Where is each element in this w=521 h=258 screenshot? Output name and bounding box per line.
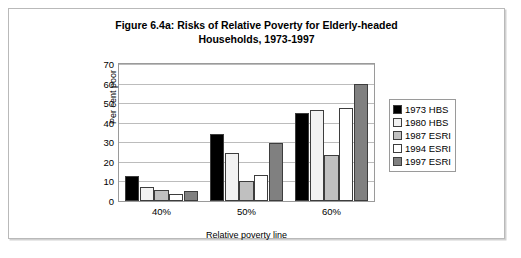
x-axis-tick-label: 40% bbox=[152, 206, 171, 217]
bar bbox=[210, 134, 224, 201]
figure-frame: Figure 6.4a: Risks of Relative Poverty f… bbox=[8, 8, 505, 239]
chart-legend: 1973 HBS1980 HBS1987 ESRI1994 ESRI1997 E… bbox=[389, 99, 456, 172]
legend-item-label: 1973 HBS bbox=[405, 105, 448, 114]
x-axis-label: Relative poverty line bbox=[119, 230, 374, 240]
legend-swatch-icon bbox=[393, 144, 402, 153]
y-axis-tick-label: 20 bbox=[103, 158, 114, 167]
bar bbox=[310, 110, 324, 201]
legend-item: 1973 HBS bbox=[393, 103, 451, 116]
figure-title: Figure 6.4a: Risks of Relative Poverty f… bbox=[9, 18, 504, 46]
bar bbox=[295, 113, 309, 201]
legend-swatch-icon bbox=[393, 105, 402, 114]
bar-group bbox=[295, 64, 368, 201]
bar bbox=[254, 175, 268, 201]
bar bbox=[225, 153, 239, 201]
legend-item-label: 1994 ESRI bbox=[405, 144, 451, 153]
legend-item-label: 1980 HBS bbox=[405, 118, 448, 127]
bar-group bbox=[210, 64, 283, 201]
x-axis-tick-label: 60% bbox=[322, 206, 341, 217]
legend-swatch-icon bbox=[393, 118, 402, 127]
legend-item: 1997 ESRI bbox=[393, 155, 451, 168]
legend-item: 1987 ESRI bbox=[393, 129, 451, 142]
legend-swatch-icon bbox=[393, 131, 402, 140]
y-axis-tick-label: 0 bbox=[109, 197, 114, 206]
y-axis-tick-label: 10 bbox=[103, 177, 114, 186]
plot-area: 010203040506070 40%50%60% Per cent poor … bbox=[118, 63, 375, 202]
bar bbox=[140, 187, 154, 201]
legend-item-label: 1987 ESRI bbox=[405, 131, 451, 140]
bar bbox=[169, 194, 183, 201]
legend-item: 1994 ESRI bbox=[393, 142, 451, 155]
bar bbox=[339, 108, 353, 201]
legend-item-label: 1997 ESRI bbox=[405, 157, 451, 166]
bar-group bbox=[125, 64, 198, 201]
bar bbox=[184, 191, 198, 201]
bar bbox=[239, 181, 253, 201]
legend-swatch-icon bbox=[393, 157, 402, 166]
x-axis-tick-label: 50% bbox=[237, 206, 256, 217]
bar bbox=[125, 176, 139, 201]
figure-title-line-2: Households, 1973-1997 bbox=[9, 32, 504, 46]
legend-item: 1980 HBS bbox=[393, 116, 451, 129]
bar bbox=[354, 84, 368, 201]
bar bbox=[269, 143, 283, 201]
figure-title-line-1: Figure 6.4a: Risks of Relative Poverty f… bbox=[9, 18, 504, 32]
bar bbox=[154, 190, 168, 201]
bar bbox=[324, 155, 338, 201]
y-axis-label: Per cent poor bbox=[108, 47, 118, 147]
